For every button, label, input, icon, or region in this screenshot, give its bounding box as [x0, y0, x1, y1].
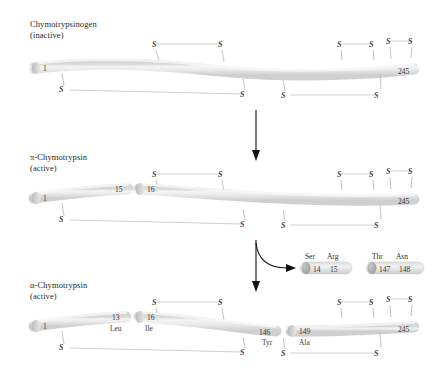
sulfur-icon: S	[337, 298, 342, 307]
sulfur-icon: S	[386, 167, 391, 176]
sulfur-icon: S	[408, 167, 413, 176]
peptide-residue-name-asn: Asn	[396, 252, 408, 261]
sulfur-icon: S	[152, 40, 157, 49]
activation-arrow-1	[252, 110, 260, 161]
sulfur-icon: S	[59, 343, 64, 352]
residue-number-245: 245	[398, 67, 410, 76]
sulfur-icon: S	[374, 349, 379, 358]
sulfur-icon: S	[281, 349, 286, 358]
peptide-residue-number-148: 148	[399, 265, 411, 274]
sulfur-icon: S	[408, 37, 413, 46]
stage-chymotrypsinogen: Chymotrypsinogen (inactive) 1 245	[30, 19, 414, 100]
released-peptide-ser-arg: Ser Arg 14 15	[300, 252, 352, 274]
residue-number-149: 149	[299, 327, 311, 336]
peptide-residue-name-arg: Arg	[327, 252, 339, 261]
stage-label-line1: α-Chymotrypsin	[30, 280, 88, 290]
stage-pi-chymotrypsin: π-Chymotrypsin (active) 1 15 16 245	[30, 152, 414, 230]
residue-name-ile: Ile	[145, 324, 154, 333]
peptide-residue-number-147: 147	[379, 265, 391, 274]
sulfur-icon: S	[152, 170, 157, 179]
stage-label-line2: (inactive)	[30, 30, 64, 40]
released-peptide-thr-asn: Thr Asn 147 148	[366, 252, 424, 274]
disulfide-bridges-above	[156, 41, 412, 62]
polypeptide-chain: 1 245	[32, 60, 415, 76]
peptide-residue-number-15: 15	[330, 265, 338, 274]
residue-number-245: 245	[398, 197, 410, 206]
residue-number-16: 16	[147, 185, 155, 194]
chymotrypsin-activation-figure: Chymotrypsinogen (inactive) 1 245	[0, 0, 448, 371]
peptide-residue-number-14: 14	[313, 265, 321, 274]
residue-name-leu: Leu	[110, 324, 122, 333]
sulfur-icon: S	[218, 170, 223, 179]
sulfur-icon: S	[337, 40, 342, 49]
stage-alpha-chymotrypsin: α-Chymotrypsin (active) 1 13 Leu 16	[30, 280, 414, 358]
sulfur-icon: S	[374, 91, 379, 100]
peptide-release-arrow	[256, 243, 296, 272]
sulfur-icon: S	[408, 295, 413, 304]
activation-arrow-2	[252, 240, 260, 292]
residue-name-tyr: Tyr	[262, 338, 273, 347]
disulfide-bridges-below	[62, 203, 381, 225]
stage-label-line1: Chymotrypsinogen	[30, 19, 97, 29]
sulfur-icon: S	[369, 40, 374, 49]
sulfur-icon: S	[59, 215, 64, 224]
sulfur-icon: S	[374, 221, 379, 230]
polypeptide-chain-segment-1-15: 1 15	[32, 185, 129, 205]
stage-label-line2: (active)	[30, 291, 57, 301]
sulfur-icon: S	[59, 85, 64, 94]
residue-number-1: 1	[43, 322, 47, 331]
sulfur-icon: S	[281, 221, 286, 230]
polypeptide-chain-segment-16-245: 16 245	[136, 183, 415, 206]
residue-number-1: 1	[43, 64, 47, 73]
residue-number-146: 146	[259, 328, 271, 337]
polypeptide-chain-segment-16-146: 16 Ile 146 Tyr	[136, 311, 277, 347]
peptide-residue-name-thr: Thr	[372, 252, 383, 261]
polypeptide-chain-segment-1-13: 1 13 Leu	[32, 313, 127, 334]
residue-number-15: 15	[115, 185, 123, 194]
residue-number-13: 13	[112, 313, 120, 322]
sulfur-icon: S	[281, 91, 286, 100]
stage-label-line1: π-Chymotrypsin	[30, 152, 88, 162]
sulfur-icon: S	[218, 40, 223, 49]
sulfur-icon: S	[218, 298, 223, 307]
residue-number-245: 245	[398, 325, 410, 334]
residue-name-ala: Ala	[299, 338, 310, 347]
stage-label-line2: (active)	[30, 163, 57, 173]
sulfur-icon: S	[240, 90, 245, 99]
peptide-residue-name-ser: Ser	[305, 252, 315, 261]
sulfur-icon: S	[369, 298, 374, 307]
residue-number-16: 16	[147, 313, 155, 322]
sulfur-icon: S	[240, 348, 245, 357]
sulfur-icon: S	[386, 37, 391, 46]
polypeptide-chain-segment-149-245: 149 Ala 245	[288, 323, 415, 348]
sulfur-icon: S	[337, 170, 342, 179]
sulfur-icon: S	[240, 220, 245, 229]
sulfur-icon: S	[386, 295, 391, 304]
sulfur-icon: S	[152, 298, 157, 307]
residue-number-1: 1	[43, 194, 47, 203]
sulfur-icon: S	[369, 170, 374, 179]
